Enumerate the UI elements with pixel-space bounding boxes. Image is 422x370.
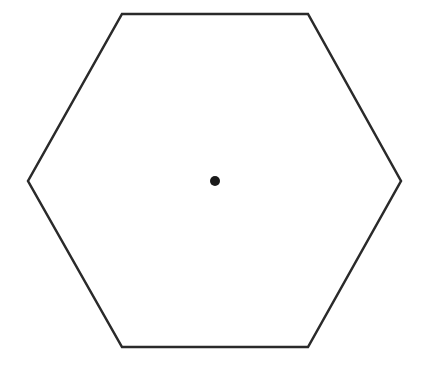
center-point [210,176,220,186]
diagram-canvas [0,0,422,370]
